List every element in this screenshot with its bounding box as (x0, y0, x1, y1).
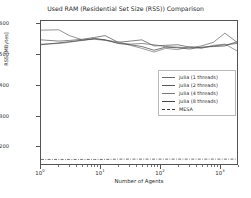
y-tick-label: 600 (0, 20, 9, 26)
y-tick-label: 500 (0, 51, 9, 57)
x-tick-minor-mark (97, 165, 98, 167)
x-axis-label: Number of Agents (40, 178, 238, 184)
x-tick-label: 102 (147, 168, 173, 176)
legend-line-swatch (161, 106, 176, 112)
legend-item: julia (2 threads) (161, 81, 233, 89)
x-tick-minor-mark (154, 165, 155, 167)
x-tick-mark (160, 165, 161, 169)
x-tick-minor-mark (136, 165, 137, 167)
legend-label: MESA (179, 106, 193, 112)
x-tick-minor-mark (202, 165, 203, 167)
x-tick-minor-mark (189, 165, 190, 167)
x-tick-minor-mark (91, 165, 92, 167)
x-tick-minor-mark (214, 165, 215, 167)
legend-item: julia (4 threads) (161, 89, 233, 97)
legend-label: julia (4 threads) (179, 90, 218, 96)
y-tick-label: 200 (0, 143, 9, 149)
x-tick-minor-mark (151, 165, 152, 167)
legend-line-swatch (161, 74, 176, 80)
series-line (41, 39, 237, 52)
x-tick-minor-mark (207, 165, 208, 167)
x-tick-label: 100 (27, 168, 53, 176)
legend-line-swatch (161, 82, 176, 88)
legend-line-swatch (161, 90, 176, 96)
x-tick-mark (40, 165, 41, 169)
legend-label: julia (2 threads) (179, 82, 218, 88)
x-tick-minor-mark (178, 165, 179, 167)
x-tick-minor-mark (196, 165, 197, 167)
x-tick-mark (100, 165, 101, 169)
x-tick-label: 101 (87, 168, 113, 176)
x-tick-minor-mark (211, 165, 212, 167)
chart-title: Used RAM (Residential Set Size (RSS)) Co… (0, 5, 251, 12)
chart-figure: Used RAM (Residential Set Size (RSS)) Co… (0, 0, 251, 198)
legend-item: MESA (161, 105, 233, 113)
x-tick-minor-mark (129, 165, 130, 167)
x-tick-minor-mark (217, 165, 218, 167)
x-tick-minor-mark (118, 165, 119, 167)
chart-legend: julia (1 threads)julia (2 threads)julia … (158, 70, 236, 116)
y-axis-label: RSS [MBytes] (3, 19, 9, 79)
x-tick-label: 103 (207, 168, 233, 176)
x-tick-minor-mark (82, 165, 83, 167)
y-tick-label: 400 (0, 82, 9, 88)
x-tick-minor-mark (69, 165, 70, 167)
series-line (41, 30, 237, 48)
legend-line-swatch (161, 98, 176, 104)
x-tick-mark (220, 165, 221, 169)
y-tick-label: 300 (0, 113, 9, 119)
x-tick-minor-mark (238, 165, 239, 167)
legend-item: julia (8 threads) (161, 97, 233, 105)
legend-label: julia (8 threads) (179, 98, 218, 104)
x-tick-minor-mark (157, 165, 158, 167)
legend-label: julia (1 threads) (179, 74, 218, 80)
x-tick-minor-mark (76, 165, 77, 167)
x-tick-minor-mark (87, 165, 88, 167)
x-tick-minor-mark (147, 165, 148, 167)
x-tick-minor-mark (94, 165, 95, 167)
x-tick-minor-mark (142, 165, 143, 167)
x-tick-minor-mark (58, 165, 59, 167)
legend-item: julia (1 threads) (161, 73, 233, 81)
